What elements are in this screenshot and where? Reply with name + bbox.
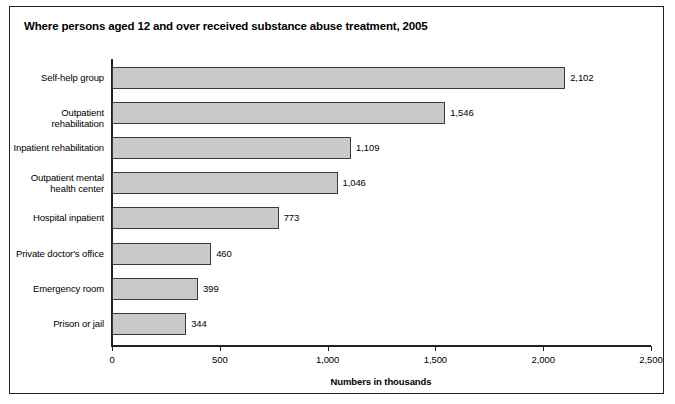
bar [112, 313, 186, 335]
plot-area: Self-help group2,102Outpatient rehabilit… [10, 7, 665, 395]
x-axis-tick-label: 0 [109, 354, 114, 365]
bar-row: Inpatient rehabilitation1,109 [10, 137, 665, 159]
bar-category-label-line1: Hospital inpatient [10, 212, 104, 223]
bar [112, 243, 211, 265]
bar-category-label: Self-help group [10, 72, 104, 83]
chart-figure: Where persons aged 12 and over received … [9, 6, 664, 394]
bar [112, 67, 565, 89]
x-axis-tick [435, 346, 436, 351]
bar-category-label: Outpatient mentalhealth center [10, 172, 104, 194]
bar [112, 172, 338, 194]
x-axis-tick [651, 346, 652, 351]
bar-value-label: 344 [191, 318, 207, 329]
bar-category-label: Hospital inpatient [10, 212, 104, 223]
x-axis-tick [220, 346, 221, 351]
bar [112, 102, 445, 124]
x-axis-tick-label: 1,500 [424, 354, 447, 365]
bar-category-label-line1: Outpatient mental [10, 172, 104, 183]
bar-value-label: 1,109 [356, 142, 379, 153]
x-axis-tick-label: 500 [212, 354, 228, 365]
bar-category-label: Inpatient rehabilitation [10, 142, 104, 153]
bar-value-label: 460 [216, 248, 232, 259]
bar-category-label: Emergency room [10, 283, 104, 294]
bar-value-label: 399 [203, 283, 219, 294]
x-axis-tick [328, 346, 329, 351]
bar-category-label-line1: Private doctor's office [10, 248, 104, 259]
bar-category-label-line1: Outpatient rehabilitation [10, 107, 104, 129]
bar [112, 137, 351, 159]
bar-category-label-line1: Emergency room [10, 283, 104, 294]
bar-row: Hospital inpatient773 [10, 207, 665, 229]
bar [112, 207, 279, 229]
x-axis-tick [543, 346, 544, 351]
bar-category-label-line1: Inpatient rehabilitation [10, 142, 104, 153]
bar-row: Prison or jail344 [10, 313, 665, 335]
bar-category-label: Outpatient rehabilitation [10, 107, 104, 129]
bar-row: Outpatient mentalhealth center1,046 [10, 172, 665, 194]
bar-value-label: 773 [284, 212, 300, 223]
bar-category-label-line1: Prison or jail [10, 318, 104, 329]
bar [112, 278, 198, 300]
bar-category-label: Prison or jail [10, 318, 104, 329]
x-axis-line [111, 345, 651, 347]
bar-category-label-line2: health center [10, 183, 104, 194]
x-axis-tick-label: 2,500 [639, 354, 662, 365]
bar-row: Outpatient rehabilitation1,546 [10, 102, 665, 124]
x-axis-tick [112, 346, 113, 351]
bar-category-label-line1: Self-help group [10, 72, 104, 83]
x-axis-tick-label: 1,000 [316, 354, 339, 365]
bar-row: Self-help group2,102 [10, 67, 665, 89]
bar-row: Private doctor's office460 [10, 243, 665, 265]
bar-value-label: 1,546 [450, 107, 473, 118]
x-axis-title: Numbers in thousands [111, 376, 651, 387]
bar-category-label: Private doctor's office [10, 248, 104, 259]
bar-value-label: 2,102 [570, 72, 593, 83]
x-axis-tick-label: 2,000 [532, 354, 555, 365]
bar-value-label: 1,046 [343, 177, 366, 188]
bar-row: Emergency room399 [10, 278, 665, 300]
